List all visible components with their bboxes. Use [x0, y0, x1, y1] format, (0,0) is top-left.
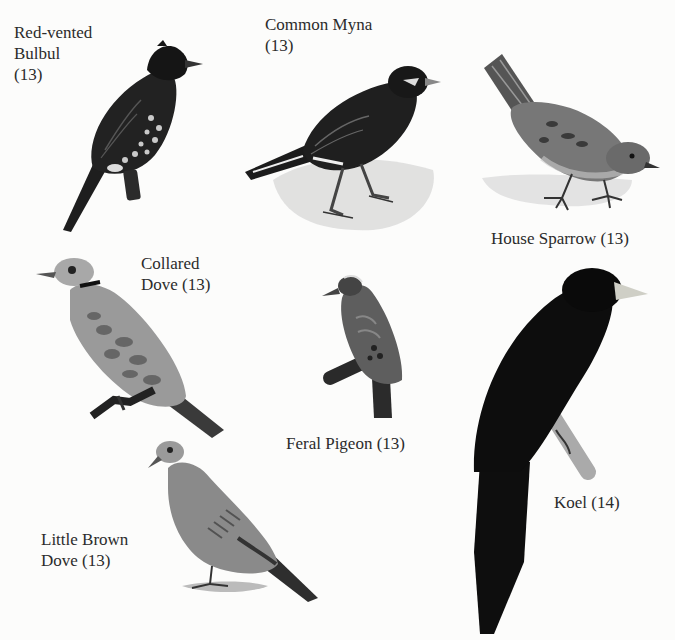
label-little-brown-dove: Little Brown Dove (13): [41, 529, 128, 571]
label-line: Koel (14): [554, 492, 620, 513]
label-line: Common Myna: [265, 14, 372, 35]
house-sparrow-illustration: [482, 48, 662, 216]
label-house-sparrow: House Sparrow (13): [491, 228, 629, 249]
koel-illustration: [470, 262, 650, 634]
little-brown-dove-illustration: [148, 438, 320, 603]
label-line: (13): [265, 35, 372, 56]
red-vented-bulbul-illustration: [55, 40, 205, 235]
feral-pigeon-illustration: [320, 268, 410, 420]
common-myna-illustration: [243, 60, 443, 235]
label-line: Dove (13): [41, 550, 128, 571]
label-common-myna: Common Myna (13): [265, 14, 372, 56]
bird-plate: Red-vented Bulbul (13): [0, 0, 675, 640]
label-koel: Koel (14): [554, 492, 620, 513]
label-line: Little Brown: [41, 529, 128, 550]
collared-dove-illustration: [34, 250, 229, 440]
label-line: House Sparrow (13): [491, 228, 629, 249]
